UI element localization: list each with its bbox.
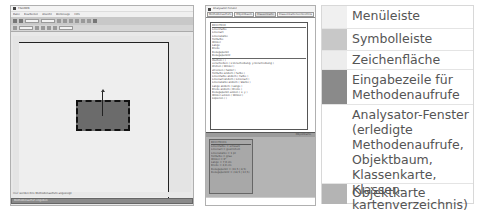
menu-item[interactable]: Werkzeuge bbox=[56, 13, 70, 16]
rect-tool-icon[interactable] bbox=[63, 19, 67, 23]
menu-item[interactable]: Hilfe bbox=[74, 13, 80, 16]
rotation-handle-arrow-icon bbox=[101, 89, 105, 92]
selected-rectangle-shape[interactable] bbox=[76, 100, 130, 131]
method-input-line[interactable]: Methodenaufruf eingeben bbox=[11, 198, 193, 204]
legend-swatch bbox=[322, 184, 347, 204]
legend-row-toolbar: Symbolleiste bbox=[322, 29, 473, 51]
legend-label: Objektkarte bbox=[347, 184, 426, 204]
legend-label: Symbolleiste bbox=[347, 29, 432, 50]
toolbar-field[interactable] bbox=[19, 26, 33, 30]
legend-table: Menüleiste Symbolleiste Zeichenfläche Ei… bbox=[321, 5, 474, 204]
tab-class-card-directory[interactable]: Klassenkartenverzeichnis bbox=[277, 12, 314, 17]
object-card: RECHTECK1 Linienfarbe = schwarz Linienar… bbox=[209, 139, 253, 194]
line-tool-icon[interactable] bbox=[69, 19, 73, 23]
legend-row-input-line: Eingabezeile für Methodenaufrufe bbox=[322, 70, 473, 105]
object-panel-header: Objektkarte bbox=[206, 133, 315, 137]
legend-label: Menüleiste bbox=[347, 6, 420, 28]
main-application-window: FIGUREN Datei Bearbeiten Ansicht Werkzeu… bbox=[10, 5, 194, 206]
toolbar-field[interactable] bbox=[41, 19, 55, 23]
legend-swatch bbox=[322, 6, 347, 28]
class-card: RECHTECK Linienfarbe Linienart Linienstä… bbox=[210, 22, 308, 130]
legend-row-analyzer-window: Analysator-Fenster (erledigte Methoden­a… bbox=[322, 105, 473, 184]
secondary-toolbar bbox=[11, 25, 193, 32]
ellipse-tool-icon[interactable] bbox=[75, 19, 79, 23]
window-title: FIGUREN bbox=[18, 7, 30, 10]
class-attributes: Linienfarbe Linienart Linienstärke Füllf… bbox=[212, 28, 306, 59]
legend-row-menu-bar: Menüleiste bbox=[322, 6, 473, 29]
grid-icon[interactable] bbox=[87, 19, 91, 23]
legend-label: Analysator-Fenster (erledigte Methoden­a… bbox=[347, 105, 472, 183]
menu-item[interactable]: Ansicht bbox=[42, 13, 52, 16]
class-methods: löschen ( ) verschieben ( x-Verschiebung… bbox=[212, 59, 306, 101]
window-title: Analysator-Fenster bbox=[213, 7, 237, 10]
tab-object-tree[interactable]: Objektbaum bbox=[234, 12, 254, 17]
line-style-icon[interactable] bbox=[41, 26, 45, 30]
symbol-toolbar bbox=[11, 17, 193, 25]
legend-label: Zeichenfläche bbox=[347, 51, 440, 69]
attribute: Bezugspunkt2 bbox=[212, 54, 306, 57]
legend-swatch bbox=[322, 29, 347, 50]
pen-icon[interactable] bbox=[13, 19, 17, 23]
toolbar-field[interactable] bbox=[59, 26, 73, 30]
method-input-field[interactable]: Methodenaufruf eingeben bbox=[14, 199, 48, 202]
rotation-handle[interactable] bbox=[102, 91, 103, 116]
color-icon[interactable] bbox=[19, 19, 23, 23]
window-bottom-strip bbox=[206, 197, 315, 205]
zoom-icon[interactable] bbox=[57, 19, 61, 23]
analyzer-window: Analysator-Fenster Methodenaufrufe Objek… bbox=[205, 5, 316, 206]
menu-item[interactable]: Bearbeiten bbox=[24, 13, 38, 16]
line-style-icon[interactable] bbox=[53, 26, 57, 30]
legend-row-drawing-area: Zeichenfläche bbox=[322, 51, 473, 70]
tab-class-card[interactable]: Klassenkarte bbox=[255, 12, 276, 17]
legend-swatch bbox=[322, 105, 347, 183]
tab-method-calls[interactable]: Methodenaufrufe bbox=[207, 12, 233, 17]
object-attribute: Bezugspunkt2 = (18,5 | 12,5) bbox=[211, 171, 251, 174]
drawing-area bbox=[13, 36, 191, 196]
select-tool-icon[interactable] bbox=[81, 19, 85, 23]
drawing-canvas[interactable] bbox=[19, 42, 169, 198]
legend-swatch bbox=[322, 70, 347, 104]
app-icon bbox=[13, 7, 16, 10]
menu-item[interactable]: Datei bbox=[13, 13, 20, 16]
legend-swatch bbox=[322, 51, 347, 69]
toolbar-field[interactable] bbox=[25, 19, 39, 23]
line-style-icon[interactable] bbox=[47, 26, 51, 30]
status-line: Hier werden Ihre Methodenaufrufe angezei… bbox=[11, 192, 193, 197]
line-style-icon[interactable] bbox=[35, 26, 39, 30]
analyzer-icon[interactable] bbox=[93, 19, 97, 23]
format-icon[interactable] bbox=[13, 26, 17, 30]
method: kopieren ( ) bbox=[212, 97, 306, 100]
legend-label: Eingabezeile für Methodenaufrufe bbox=[347, 70, 467, 104]
analyzer-tabs: Methodenaufrufe Objektbaum Klassenkarte … bbox=[206, 12, 315, 18]
app-icon bbox=[208, 8, 211, 11]
object-card-panel: Objektkarte RECHTECK1 Linienfarbe = schw… bbox=[206, 132, 315, 198]
